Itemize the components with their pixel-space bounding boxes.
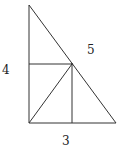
median-to-hypotenuse-line: [29, 64, 72, 123]
bottom-leg-label: 3: [62, 135, 70, 147]
midpoint-dot: [71, 63, 73, 65]
left-leg-label: 4: [2, 64, 10, 76]
hypotenuse-label: 5: [87, 44, 95, 56]
triangle-figure: [0, 0, 118, 150]
diagram-canvas: 4 5 3: [0, 0, 118, 150]
